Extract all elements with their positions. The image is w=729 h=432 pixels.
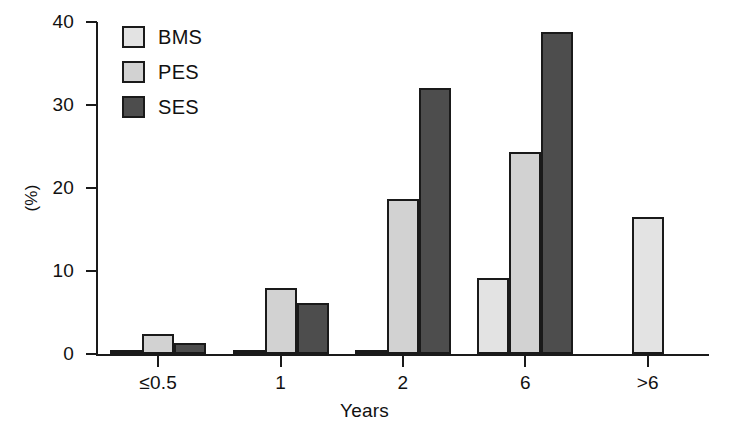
x-tick-mark <box>402 356 404 367</box>
legend-swatch-bms <box>122 26 145 48</box>
legend-label-pes: PES <box>158 62 199 82</box>
legend-swatch-pes <box>122 61 145 83</box>
bar-ses-1 <box>297 303 329 354</box>
bar-pes-3 <box>509 152 541 354</box>
bar-bms-3 <box>477 278 509 354</box>
y-axis-title: (%) <box>22 176 42 220</box>
legend-item-ses: SES <box>122 92 202 121</box>
bar-bms-4 <box>632 217 664 354</box>
x-tick-label: 6 <box>465 372 585 394</box>
y-tick-label: 10 <box>20 261 74 280</box>
x-tick-label: 2 <box>343 372 463 394</box>
x-tick-label: >6 <box>588 372 708 394</box>
bar-chart: 010203040 ≤0.5126>6 (%) Years BMSPESSES <box>0 0 729 432</box>
y-tick-mark <box>86 104 97 106</box>
legend-swatch-ses <box>122 96 145 118</box>
x-axis-title: Years <box>0 400 729 422</box>
x-tick-mark <box>647 356 649 367</box>
legend: BMSPESSES <box>122 22 202 127</box>
bar-pes-0 <box>142 334 174 354</box>
x-tick-mark <box>524 356 526 367</box>
y-tick-label: 30 <box>20 95 74 114</box>
bar-ses-0 <box>174 343 206 354</box>
y-tick-mark <box>86 21 97 23</box>
bar-bms-1 <box>233 350 265 354</box>
bar-pes-2 <box>387 199 419 354</box>
y-tick-mark <box>86 187 97 189</box>
y-tick-mark <box>86 270 97 272</box>
bar-ses-3 <box>541 32 573 354</box>
y-tick-label: 0 <box>20 344 74 363</box>
y-axis-line <box>96 22 98 356</box>
x-tick-mark <box>280 356 282 367</box>
y-tick-label: 40 <box>20 12 74 31</box>
legend-label-ses: SES <box>158 97 199 117</box>
bar-ses-2 <box>419 88 451 354</box>
bar-pes-1 <box>265 288 297 354</box>
legend-item-bms: BMS <box>122 22 202 51</box>
x-tick-label: 1 <box>221 372 341 394</box>
bar-bms-0 <box>110 350 142 354</box>
x-tick-label: ≤0.5 <box>98 372 218 394</box>
legend-label-bms: BMS <box>158 27 202 47</box>
x-tick-mark <box>157 356 159 367</box>
legend-item-pes: PES <box>122 57 202 86</box>
bar-bms-2 <box>355 350 387 354</box>
